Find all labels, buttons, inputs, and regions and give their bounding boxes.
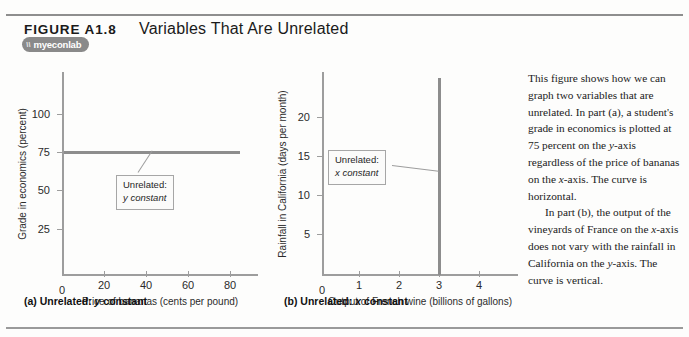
x-tick-label-b-1: 1 [356,279,362,291]
y-axis-title-a: Grade in economics (percent) [17,108,28,240]
callout-a-line1: Unrelated: [123,179,167,190]
explanatory-paragraph-1: This figure shows how we can graph two v… [528,70,680,204]
explanatory-text: This figure shows how we can graph two v… [528,70,680,288]
x-tick-label-a-20: 20 [98,279,110,291]
x-axis-a [62,274,258,276]
y-tick-a-75: 75 [57,152,63,153]
y-tick-label-a-50: 50 [38,184,50,196]
callout-a: Unrelated: y constant [116,175,174,210]
y-tick-a-25: 25 [57,229,63,230]
callout-b-line2: x constant [335,167,378,178]
y-tick-label-a-100: 100 [32,108,50,120]
chart-panel-b: 20 15 10 5 0 1 2 3 4 [274,66,524,281]
caption-b: (b) Unrelated: x constant [284,295,408,307]
figure-page: FIGURE A1.8 Variables That Are Unrelated… [0,0,689,337]
y-tick-label-b-15: 15 [298,150,310,162]
y-tick-label-b-10: 10 [298,189,310,201]
y-tick-label-b-20: 20 [298,111,310,123]
figure-title: Variables That Are Unrelated [139,20,349,38]
y-tick-a-50: 50 [57,190,63,191]
y-tick-label-a-25: 25 [38,223,50,235]
figure-number: FIGURE A1.8 [24,22,117,37]
chart-panel-a: 100 75 50 25 0 20 40 60 80 [14,66,264,281]
myeconlab-badge[interactable]: \\ myeconlab [22,37,89,52]
x-tick-b-4: 4 [479,271,480,277]
callout-b: Unrelated: x constant [328,150,386,185]
y-tick-b-20: 20 [317,117,323,118]
x-tick-label-a-60: 60 [182,279,194,291]
x-tick-label-b-3: 3 [436,279,442,291]
x-tick-a-20: 20 [104,271,105,277]
callout-b-line1: Unrelated: [335,154,379,165]
x-tick-b-2: 2 [399,271,400,277]
y-tick-a-100: 100 [57,114,63,115]
y-tick-b-5: 5 [317,234,323,235]
bottom-divider [6,327,683,329]
caption-a-suffix: constant [100,295,147,307]
y-axis-title-b: Rainfall in California (days per month) [277,90,288,257]
caption-a: (a) Unrelated: y constant [24,295,147,307]
x-tick-b-1: 1 [359,271,360,277]
x-tick-label-a-40: 40 [140,279,152,291]
explanatory-paragraph-2: In part (b), the output of the vineyards… [528,204,680,288]
y-axis-b [322,72,324,276]
y-axis-a [62,72,64,276]
x-tick-label-a-80: 80 [224,279,236,291]
callout-b-leader [392,165,439,172]
x-tick-a-40: 40 [146,271,147,277]
y-tick-b-15: 15 [317,156,323,157]
plot-area-a: 100 75 50 25 0 20 40 60 80 [62,72,258,276]
y-tick-label-b-5: 5 [304,228,310,240]
para2-part-a: In part (b), the output of the vineyards… [528,206,671,235]
x-axis-b [322,274,518,276]
x-tick-a-80: 80 [230,271,231,277]
myeconlab-label: myeconlab [33,39,81,50]
curve-b-vertical [438,78,441,275]
callout-a-line2: y constant [123,192,166,203]
myeconlab-mark-icon: \\ [26,40,30,49]
para1-part-a: This figure shows how we can graph two v… [528,72,673,151]
caption-a-prefix: (a) Unrelated: [24,295,95,307]
x-tick-label-b-2: 2 [396,279,402,291]
top-divider [6,14,683,16]
y-tick-label-a-75: 75 [38,146,50,158]
caption-b-prefix: (b) Unrelated: [284,295,355,307]
plot-area-b: 20 15 10 5 0 1 2 3 4 [322,72,518,276]
caption-b-suffix: constant [361,295,408,307]
x-tick-a-60: 60 [188,271,189,277]
y-tick-b-10: 10 [317,195,323,196]
x-tick-label-b-4: 4 [476,279,482,291]
